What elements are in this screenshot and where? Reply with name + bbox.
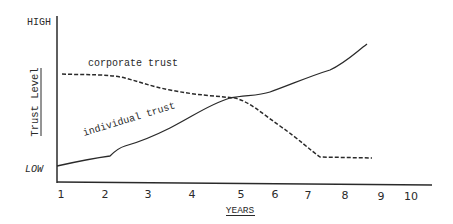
x-tick-1: 1 [58, 188, 65, 201]
y-label-high: HIGH [27, 17, 51, 28]
x-tick-6: 6 [272, 188, 279, 201]
x-tick-9: 9 [378, 190, 385, 203]
x-tick-2: 2 [102, 188, 109, 201]
label-individual-trust: individual trust [82, 100, 177, 139]
x-axis-title-text: YEARS [226, 205, 255, 216]
y-axis-title: Trust Level [29, 67, 41, 136]
x-tick-10: 10 [404, 190, 418, 203]
label-individual-trust-group: individual trust [82, 100, 177, 139]
label-corporate-trust: corporate trust [88, 58, 178, 69]
y-axis-title-text: Trust Level [29, 67, 41, 136]
x-axis [57, 182, 432, 185]
x-tick-3: 3 [145, 188, 152, 201]
y-label-low: LOW [25, 164, 44, 175]
x-tick-7: 7 [305, 189, 312, 202]
x-tick-8: 8 [342, 189, 349, 202]
trust-chart: HIGH LOW Trust Level 1 2 3 4 5 6 7 8 9 1… [0, 0, 453, 224]
x-tick-labels: 1 2 3 4 5 6 7 8 9 10 [58, 188, 419, 203]
x-axis-title: YEARS [226, 205, 255, 216]
x-tick-4: 4 [189, 188, 196, 201]
series-corporate-trust [62, 74, 372, 158]
x-tick-5: 5 [238, 188, 245, 201]
